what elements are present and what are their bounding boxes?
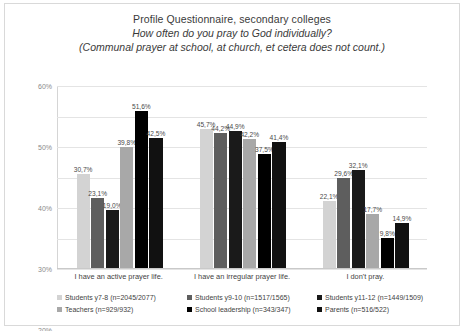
y-tick-label: 40% [38,205,52,212]
bar-slot: 42,2% [243,86,256,268]
bar-slot: 14,9% [395,86,408,268]
bar-group: 30,7%23,1%19,0%39,8%51,6%42,5% [58,86,181,268]
chart-subtitle: How often do you pray to God individuall… [5,26,459,40]
legend-label: Parents (n=516/522) [325,306,389,313]
bar-value-label: 30,7% [74,166,93,173]
bar[interactable] [366,214,379,268]
plot-area: 60%50%40%30%20%10%0% 30,7%23,1%19,0%39,8… [57,86,427,269]
bar[interactable] [243,139,256,268]
y-tick-label: 50% [38,144,52,151]
bar-slot: 30,7% [77,86,90,268]
bar[interactable] [149,138,162,268]
bar-group: 45,7%44,2%44,9%42,2%37,5%41,4% [181,86,304,268]
chart-title: Profile Questionnaire, secondary college… [5,12,459,26]
legend-label: Students y7-8 (n=2045/2077) [65,294,156,301]
bar-slot: 42,5% [149,86,162,268]
bar[interactable] [352,170,365,268]
legend-swatch-icon [57,295,62,300]
bar[interactable] [381,238,394,268]
bar-groups: 30,7%23,1%19,0%39,8%51,6%42,5%45,7%44,2%… [58,86,427,268]
bar-value-label: 39,8% [117,139,136,146]
category-axis-labels: I have an active prayer life.I have an i… [57,272,427,281]
bar[interactable] [106,210,119,268]
bar-value-label: 29,6% [334,170,353,177]
bar-value-label: 19,0% [103,202,122,209]
bar-slot: 29,6% [337,86,350,268]
bar-value-label: 14,9% [393,215,412,222]
y-tick-label: 30% [38,266,52,273]
bar-value-label: 51,6% [132,103,151,110]
bar-slot: 45,7% [200,86,213,268]
legend-item[interactable]: Students y9-10 (n=1517/1565) [187,294,317,301]
y-tick-label: 60% [38,83,52,90]
y-tick-label: 20% [38,327,52,331]
bar-value-label: 9,8% [380,230,395,237]
chart-title-block: Profile Questionnaire, secondary college… [5,12,459,54]
bar-slot: 39,8% [120,86,133,268]
bar-slot: 51,6% [135,86,148,268]
bar-value-label: 22,1% [320,193,339,200]
bar-value-label: 44,9% [226,123,245,130]
bar-slot: 41,4% [272,86,285,268]
gridline: 0% [57,269,427,270]
legend-swatch-icon [187,295,192,300]
legend-item[interactable]: Teachers (n=929/932) [57,306,187,313]
bar-value-label: 42,5% [147,130,166,137]
chart-legend: Students y7-8 (n=2045/2077)Students y9-1… [57,294,447,313]
bar[interactable] [200,129,213,268]
bar-group: 22,1%29,6%32,1%17,7%9,8%14,9% [304,86,427,268]
bar-value-label: 42,2% [240,131,259,138]
chart-subtitle-secondary: (Communal prayer at school, at church, e… [5,40,459,54]
legend-label: Students y11-12 (n=1449/1509) [325,294,423,301]
bar-slot: 32,1% [352,86,365,268]
legend-item[interactable]: Students y11-12 (n=1449/1509) [317,294,447,301]
legend-label: Students y9-10 (n=1517/1565) [195,294,290,301]
bar-slot: 44,9% [229,86,242,268]
bar-slot: 22,1% [323,86,336,268]
legend-swatch-icon [57,307,62,312]
bar-slot: 23,1% [91,86,104,268]
category-label-2: I don't pray. [304,272,427,281]
bar-slot: 37,5% [258,86,271,268]
legend-swatch-icon [317,295,322,300]
legend-item[interactable]: Students y7-8 (n=2045/2077) [57,294,187,301]
bar[interactable] [395,223,408,268]
bar-value-label: 23,1% [88,190,107,197]
bar-slot: 9,8% [381,86,394,268]
bar[interactable] [77,174,90,268]
bar-value-label: 37,5% [255,146,274,153]
bar-value-label: 41,4% [270,134,289,141]
bar[interactable] [258,154,271,268]
legend-item[interactable]: Parents (n=516/522) [317,306,447,313]
bar-slot: 19,0% [106,86,119,268]
legend-swatch-icon [187,307,192,312]
bar[interactable] [323,201,336,268]
category-label-0: I have an active prayer life. [57,272,180,281]
category-label-1: I have an irregular prayer life. [180,272,303,281]
chart-card: Profile Questionnaire, secondary college… [4,3,460,326]
bar[interactable] [272,142,285,268]
legend-swatch-icon [317,307,322,312]
bar[interactable] [229,131,242,268]
bar-slot: 44,2% [214,86,227,268]
legend-item[interactable]: School leadership (n=343/347) [187,306,317,313]
legend-label: Teachers (n=929/932) [65,306,133,313]
legend-label: School leadership (n=343/347) [195,306,291,313]
bar-value-label: 32,1% [349,162,368,169]
bar-value-label: 17,7% [363,206,382,213]
bar-slot: 17,7% [366,86,379,268]
bar[interactable] [120,147,133,268]
bar[interactable] [214,133,227,268]
bar[interactable] [337,178,350,268]
